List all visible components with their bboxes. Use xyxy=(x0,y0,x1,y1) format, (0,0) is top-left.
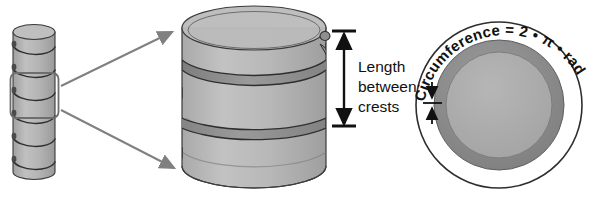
small-threaded-rod xyxy=(11,25,59,180)
cylinder-top-ellipse xyxy=(182,6,326,50)
magnified-cylinder xyxy=(167,6,332,199)
pitch-label-line1: Length xyxy=(358,58,405,75)
callout-arrow-bottom xyxy=(61,110,174,168)
thread-crest-stub-top xyxy=(320,32,330,41)
pitch-label-line3: crests xyxy=(358,98,400,115)
pitch-dimension: Length between crests xyxy=(332,31,417,126)
callout-arrows xyxy=(61,32,174,168)
cylinder-body xyxy=(182,28,326,188)
core-disc xyxy=(446,52,552,158)
pitch-label-line2: between xyxy=(358,78,417,95)
diagram-canvas: Length between crests Circumference = 2 … xyxy=(0,0,597,199)
rod-top-ellipse xyxy=(13,25,55,40)
callout-arrow-top xyxy=(61,32,172,86)
thread-geometry-diagram: Length between crests Circumference = 2 … xyxy=(0,0,597,199)
